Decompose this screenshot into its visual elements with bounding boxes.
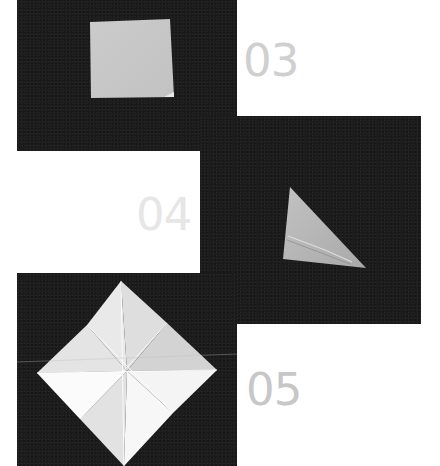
step-number-05: 05 <box>246 367 301 412</box>
step-number-04: 04 <box>136 192 191 237</box>
step-05-photo-panel <box>17 273 237 466</box>
step-number-03: 03 <box>243 38 298 83</box>
creased-diamond-paper-image <box>17 273 237 466</box>
